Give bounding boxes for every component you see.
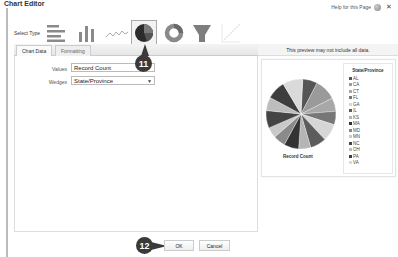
legend-swatch — [349, 155, 352, 158]
callout-step-11: 11 — [135, 55, 152, 72]
preview-notice: This preview may not include all data. — [258, 44, 398, 56]
legend-item: VA — [349, 160, 392, 167]
legend-swatch — [349, 96, 352, 99]
pie-caption: Record Count — [283, 154, 313, 159]
chart-type-line[interactable] — [104, 20, 130, 46]
legend-label: CT — [353, 89, 359, 94]
legend-label: FL — [353, 95, 358, 100]
legend-label: IL — [353, 108, 357, 113]
legend-label: AL — [353, 76, 359, 81]
legend-swatch — [349, 142, 352, 145]
legend-swatch — [349, 135, 352, 138]
help-icon[interactable] — [374, 4, 381, 11]
scatter-chart-icon — [219, 22, 241, 44]
donut-chart-icon — [163, 22, 185, 44]
legend-swatch — [349, 129, 352, 132]
wedges-select[interactable]: State/Province ▼ — [71, 76, 155, 85]
chart-type-scatter[interactable] — [217, 20, 243, 46]
chart-type-funnel[interactable] — [189, 20, 215, 46]
legend-label: OH — [353, 147, 360, 152]
close-icon[interactable]: ✕ — [386, 3, 392, 11]
horizontal-bar-chart-icon — [45, 23, 67, 43]
line-chart-icon — [105, 23, 129, 43]
pie-chart-icon — [133, 22, 155, 44]
legend-label: NC — [353, 141, 360, 146]
tab-formatting[interactable]: Formatting — [55, 45, 91, 56]
wedges-label: Wedges — [27, 79, 67, 85]
legend-label: VA — [353, 160, 359, 165]
select-type-label: Select Type — [14, 30, 40, 36]
chart-type-vertical-column[interactable] — [74, 20, 100, 46]
help-link[interactable]: Help for this Page — [331, 4, 371, 10]
vertical-column-chart-icon — [76, 22, 98, 44]
legend-title: State/Province — [344, 68, 392, 73]
legend-label: MD — [353, 128, 360, 133]
dialog-title: Chart Editor — [4, 0, 44, 7]
chart-type-pie[interactable] — [131, 20, 157, 46]
legend-label: GA — [353, 102, 360, 107]
legend-label: PA — [353, 154, 359, 159]
legend-swatch — [349, 116, 352, 119]
legend-label: MN — [353, 134, 360, 139]
legend-swatch — [349, 122, 352, 125]
pie-chart-preview — [265, 78, 337, 150]
pie-legend: State/Province ALCACTFLGAILKSMAMDMNNCOHP… — [343, 63, 393, 174]
legend-swatch — [349, 103, 352, 106]
funnel-chart-icon — [191, 22, 213, 44]
values-label: Values — [27, 66, 67, 72]
help-bar: Help for this Page ✕ — [331, 3, 392, 11]
legend-label: MA — [353, 121, 360, 126]
legend-swatch — [349, 90, 352, 93]
chevron-down-icon: ▼ — [147, 77, 152, 85]
chart-type-horizontal-bar[interactable] — [43, 20, 69, 46]
legend-swatch — [349, 148, 352, 151]
legend-swatch — [349, 77, 352, 80]
legend-swatch — [349, 109, 352, 112]
legend-swatch — [349, 161, 352, 164]
cancel-button[interactable]: Cancel — [199, 240, 230, 251]
wedges-select-text: State/Province — [74, 78, 113, 84]
tab-chart-data[interactable]: Chart Data — [16, 45, 52, 56]
chart-type-donut[interactable] — [161, 20, 187, 46]
dialog-left-border — [6, 8, 8, 257]
legend-label: KS — [353, 115, 359, 120]
legend-swatch — [349, 83, 352, 86]
ok-button[interactable]: OK — [164, 240, 194, 251]
editor-tabs: Chart Data Formatting — [14, 44, 258, 56]
legend-label: CA — [353, 82, 359, 87]
values-field-text: Record Count — [74, 65, 111, 71]
